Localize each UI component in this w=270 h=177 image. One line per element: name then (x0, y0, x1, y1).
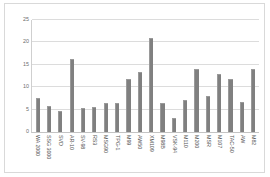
y-axis-tick-5: 5 (13, 107, 29, 112)
y-axis-tick-25: 25 (13, 17, 29, 22)
bar-slot (134, 20, 145, 132)
x-tick-slot: SV-98 (77, 134, 88, 174)
bar-slot (55, 20, 66, 132)
bar[interactable] (81, 108, 85, 132)
x-tick-slot: AW (236, 134, 247, 174)
x-axis-tick-label: M200 (194, 135, 199, 148)
x-tick-slot: RS3 (88, 134, 99, 174)
x-axis-tick-label: WA 2000 (34, 135, 39, 156)
x-axis-tick-label: M110 (182, 135, 187, 148)
bar[interactable] (217, 74, 221, 132)
x-axis-tick-label: M98B (159, 135, 164, 149)
bar-series (32, 20, 259, 132)
x-axis-tick-label: SVD (57, 135, 62, 146)
x-tick-slot: AR-10 (65, 134, 76, 174)
bar[interactable] (70, 59, 74, 132)
x-axis-tick-label: AW50 (137, 135, 142, 149)
bar[interactable] (228, 79, 232, 132)
bar-slot (179, 20, 190, 132)
bar[interactable] (47, 106, 51, 132)
x-axis-tick-label: M82 (251, 135, 256, 145)
x-tick-slot: SSG 3000 (42, 134, 53, 174)
x-tick-slot: MSG90 (99, 134, 110, 174)
x-tick-slot: WA 2000 (31, 134, 42, 174)
bar-slot (123, 20, 134, 132)
x-axis-tick-label: TPG-1 (114, 135, 119, 150)
x-axis-tick-label: MSR (205, 135, 210, 147)
plot-area (31, 20, 259, 133)
bar-slot (236, 20, 247, 132)
y-axis-tick-15: 15 (13, 62, 29, 67)
bar-slot (191, 20, 202, 132)
x-tick-slot: M200 (191, 134, 202, 174)
bar[interactable] (126, 79, 130, 132)
bar[interactable] (138, 72, 142, 132)
bar[interactable] (251, 69, 255, 132)
bar[interactable] (194, 69, 198, 132)
y-axis-tick-10: 10 (13, 84, 29, 89)
bar-slot (100, 20, 111, 132)
x-tick-slot: M98B (156, 134, 167, 174)
bar[interactable] (104, 103, 108, 132)
bar[interactable] (183, 100, 187, 132)
x-tick-slot: MSR (202, 134, 213, 174)
bar-slot (66, 20, 77, 132)
x-tick-slot: TAC-50 (225, 134, 236, 174)
y-axis-tick-labels: 0510152025 (13, 20, 29, 132)
x-tick-slot: XM109 (145, 134, 156, 174)
x-axis-tick-label: SV-98 (80, 135, 85, 149)
x-axis-tick-label: AR-10 (68, 135, 73, 150)
plot-wrapper: 0510152025 WA 2000SSG 3000SVDAR-10SV-98R… (5, 4, 264, 172)
bar-chart-figure: 0510152025 WA 2000SSG 3000SVDAR-10SV-98R… (4, 3, 265, 173)
x-axis-tick-label: M99 (125, 135, 130, 145)
bar[interactable] (115, 103, 119, 132)
x-tick-slot: TPG-1 (111, 134, 122, 174)
x-axis-tick-label: M107 (217, 135, 222, 148)
bar-slot (111, 20, 122, 132)
bar-slot (225, 20, 236, 132)
bar-slot (248, 20, 259, 132)
bar-slot (89, 20, 100, 132)
x-tick-slot: SVD (54, 134, 65, 174)
x-axis-tick-label: VSK-94 (171, 135, 176, 153)
bar[interactable] (160, 103, 164, 132)
x-axis-tick-label: AW (239, 135, 244, 143)
bar-slot (77, 20, 88, 132)
bar-slot (145, 20, 156, 132)
x-tick-slot: AW50 (134, 134, 145, 174)
bar[interactable] (172, 118, 176, 132)
bar-slot (32, 20, 43, 132)
x-tick-slot: M99 (122, 134, 133, 174)
x-tick-slot: VSK-94 (168, 134, 179, 174)
x-axis-tick-label: MSG90 (102, 135, 107, 153)
x-tick-slot: M110 (179, 134, 190, 174)
x-axis-tick-label: TAC-50 (228, 135, 233, 153)
bar[interactable] (36, 98, 40, 132)
bar-slot (202, 20, 213, 132)
bar[interactable] (240, 102, 244, 132)
bar[interactable] (206, 96, 210, 132)
x-axis-tick-label: RS3 (91, 135, 96, 145)
x-tick-slot: M107 (214, 134, 225, 174)
y-axis-tick-0: 0 (13, 129, 29, 134)
bar[interactable] (92, 107, 96, 132)
bar-slot (168, 20, 179, 132)
x-axis-tick-labels: WA 2000SSG 3000SVDAR-10SV-98RS3MSG90TPG-… (31, 134, 259, 174)
x-axis-tick-label: SSG 3000 (45, 135, 50, 159)
bar[interactable] (58, 111, 62, 132)
x-tick-slot: M82 (248, 134, 259, 174)
bar-slot (214, 20, 225, 132)
bar-slot (157, 20, 168, 132)
bar[interactable] (149, 38, 153, 132)
x-axis-tick-label: XM109 (148, 135, 153, 152)
bar-slot (43, 20, 54, 132)
y-axis-tick-20: 20 (13, 40, 29, 45)
